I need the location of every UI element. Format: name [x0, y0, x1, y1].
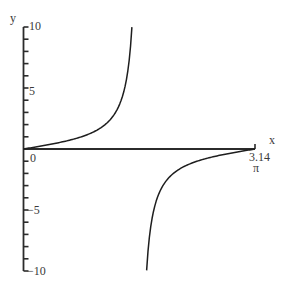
y-tick-label-10: 10: [29, 19, 41, 33]
y-tick-label-neg10: −10: [27, 264, 46, 278]
y-axis-label: y: [10, 11, 16, 25]
y-tick-label-5: 5: [29, 84, 35, 98]
x-axis-label: x: [269, 133, 275, 147]
origin-label: 0: [30, 151, 36, 165]
x-tick-label-pi-symbol: π: [253, 161, 259, 175]
tan-curve-branch-2: [147, 149, 255, 270]
y-tick-label-neg5: −5: [27, 203, 40, 217]
tan-plot: y x 10 5 0 −5 −10 3.14 π: [0, 0, 291, 288]
tan-curve-branch-1: [24, 27, 132, 149]
